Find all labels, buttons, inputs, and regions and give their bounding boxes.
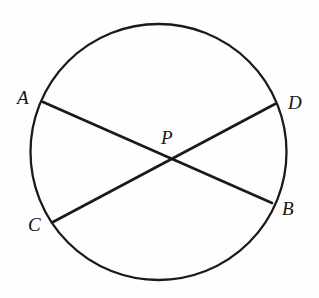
chord-ab [43, 102, 272, 203]
point-label-c: C [28, 215, 41, 234]
geometry-figure: A D P C B [0, 0, 319, 298]
point-label-a: A [17, 88, 29, 107]
point-label-p: P [161, 128, 173, 147]
point-label-b: B [282, 199, 294, 218]
point-label-d: D [288, 93, 302, 112]
figure-canvas [0, 0, 319, 298]
